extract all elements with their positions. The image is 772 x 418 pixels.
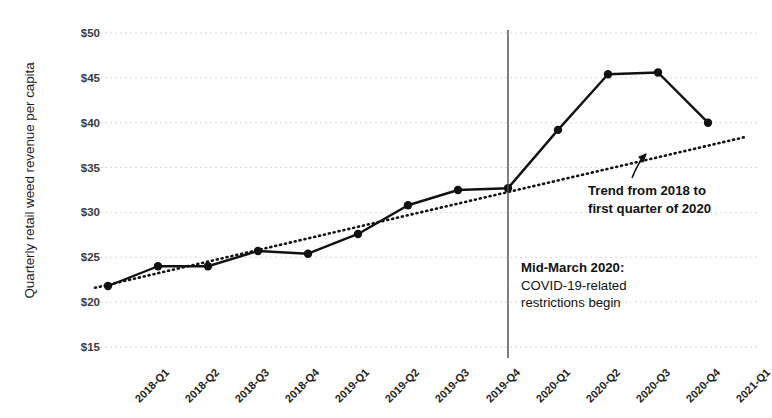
x-tick-label: 2019-Q2 xyxy=(383,366,422,405)
covid-annotation: Mid-March 2020: COVID-19-related restric… xyxy=(521,259,721,312)
x-tick-label: 2020-Q4 xyxy=(684,366,723,405)
x-tick-label: 2020-Q3 xyxy=(634,366,673,405)
x-tick-label: 2021-Q1 xyxy=(734,366,772,405)
covid-annotation-line-3: restrictions begin xyxy=(521,294,721,312)
x-tick-label: 2018-Q4 xyxy=(283,366,322,405)
covid-annotation-heading: Mid-March 2020: xyxy=(521,259,721,277)
x-tick-label: 2018-Q3 xyxy=(233,366,272,405)
covid-annotation-line-2: COVID-19-related xyxy=(521,277,721,295)
x-tick-label: 2020-Q1 xyxy=(534,366,573,405)
x-tick-label: 2018-Q2 xyxy=(183,366,222,405)
x-tick-label: 2019-Q3 xyxy=(433,366,472,405)
x-tick-label: 2019-Q4 xyxy=(484,366,523,405)
trend-annotation: Trend from 2018 to first quarter of 2020 xyxy=(588,182,768,217)
x-tick-label: 2019-Q1 xyxy=(333,366,372,405)
x-tick-label: 2018-Q1 xyxy=(133,366,172,405)
trend-annotation-line-2: first quarter of 2020 xyxy=(588,200,768,218)
trend-annotation-line-1: Trend from 2018 to xyxy=(588,182,768,200)
x-tick-label: 2020-Q2 xyxy=(584,366,623,405)
